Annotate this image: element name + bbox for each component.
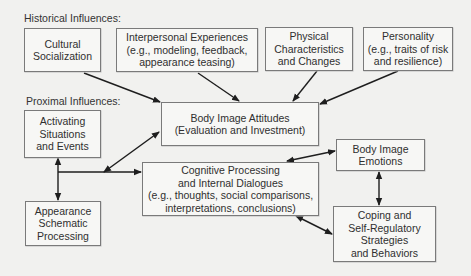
edge-physical-to-attitudes xyxy=(293,71,317,101)
node-text: Body Image Attitudes xyxy=(190,112,289,125)
edge-interpersonal-to-attitudes xyxy=(198,73,239,101)
node-body-image-emotions: Body Image Emotions xyxy=(336,139,425,171)
node-text: Characteristics xyxy=(274,43,343,56)
node-cultural-socialization: Cultural Socialization xyxy=(24,28,101,72)
node-text: and Changes xyxy=(278,55,340,68)
node-interpersonal-experiences: Interpersonal Experiences (e.g., modelin… xyxy=(116,28,258,72)
edge-personality-to-attitudes xyxy=(320,71,398,104)
node-text: (e.g., thoughts, social comparisons, xyxy=(148,189,313,202)
node-text: Body Image xyxy=(352,143,408,156)
node-text: Interpersonal Experiences xyxy=(126,31,248,44)
node-text: (e.g., modeling, feedback, xyxy=(127,44,248,57)
node-text: Coping and xyxy=(358,209,412,222)
node-text: interpretations, conclusions) xyxy=(165,202,296,215)
body-image-model-diagram: Historical Influences: Proximal Influenc… xyxy=(0,0,471,276)
node-appearance-schematic-processing: Appearance Schematic Processing xyxy=(25,201,101,246)
node-text: Emotions xyxy=(359,155,403,168)
node-text: and resilience) xyxy=(374,55,442,68)
edge-cognitive-emotions xyxy=(287,151,335,161)
historical-influences-label: Historical Influences: xyxy=(24,13,121,24)
node-text: Cultural xyxy=(44,38,80,51)
node-text: Schematic xyxy=(38,217,87,230)
node-text: Processing xyxy=(37,230,89,243)
node-personality: Personality (e.g., traits of risk and re… xyxy=(363,27,453,71)
node-text: Situations xyxy=(39,128,85,141)
edge-cognitive-coping xyxy=(296,216,332,234)
node-text: Activating xyxy=(40,115,86,128)
node-text: Personality xyxy=(382,30,434,43)
node-coping-strategies: Coping and Self-Regulatory Strategies an… xyxy=(333,206,436,262)
node-text: Physical xyxy=(289,30,328,43)
node-cognitive-processing: Cognitive Processing and Internal Dialog… xyxy=(142,162,319,216)
node-activating-situations: Activating Situations and Events xyxy=(24,110,101,158)
node-text: and Behaviors xyxy=(351,247,418,260)
node-text: appearance teasing) xyxy=(139,56,235,69)
node-text: Self-Regulatory xyxy=(348,222,420,235)
node-text: Strategies xyxy=(361,234,408,247)
node-text: (e.g., traits of risk xyxy=(368,43,449,56)
node-text: (Evaluation and Investment) xyxy=(175,124,306,137)
node-text: Cognitive Processing xyxy=(181,164,280,177)
node-body-image-attitudes: Body Image Attitudes (Evaluation and Inv… xyxy=(161,102,319,146)
node-text: Appearance xyxy=(35,205,92,218)
node-physical-characteristics: Physical Characteristics and Changes xyxy=(265,27,353,71)
node-text: and Internal Dialogues xyxy=(178,177,283,190)
proximal-influences-label: Proximal Influences: xyxy=(26,96,121,107)
node-text: and Events xyxy=(36,140,89,153)
node-text: Socialization xyxy=(33,50,92,63)
